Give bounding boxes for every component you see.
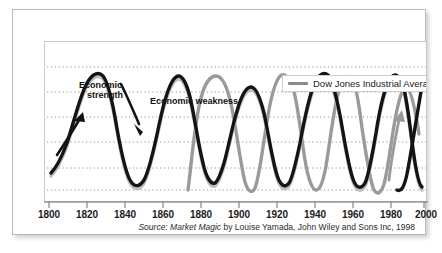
x-tick-label: 2000: [415, 209, 437, 220]
x-tick-label: 1840: [114, 209, 136, 220]
source-title: Market Magic: [168, 222, 224, 232]
annotation-economic-weakness-line2: weakness: [196, 96, 239, 106]
x-tick-label: 1820: [76, 209, 98, 220]
x-tick-label: 1900: [228, 209, 250, 220]
source-caption: Source: Market Magic by Louise Yamada, J…: [13, 222, 427, 232]
chart-legend[interactable]: Dow Jones Industrial Average: [282, 75, 427, 92]
annotation-economic-weakness-line1: Economic: [150, 96, 193, 106]
annotation-economic-strength: Economic strength: [79, 80, 123, 100]
annotation-economic-weakness: Economic weakness: [150, 96, 238, 106]
source-rest: by Louise Yamada, John Wiley and Sons In…: [223, 222, 415, 232]
axis-ticks: [49, 202, 424, 208]
x-tick-label: 1960: [342, 209, 364, 220]
x-tick-label: 1800: [38, 209, 60, 220]
source-prefix: Source:: [138, 222, 167, 232]
x-tick-label: 1920: [266, 209, 288, 220]
figure-card: Economic strength Economic weakness Dow …: [12, 9, 426, 235]
x-tick-label: 1980: [380, 209, 402, 220]
annotation-economic-strength-line1: Economic: [79, 80, 122, 90]
x-tick-label: 1880: [190, 209, 212, 220]
plot-area: Economic strength Economic weakness Dow …: [44, 41, 427, 202]
x-tick-label: 1860: [152, 209, 174, 220]
economic-strength-arrow: [57, 112, 85, 155]
annotation-economic-strength-line2: strength: [79, 90, 123, 100]
x-axis-labels: 1800 1820 1840 1860 1880 1900 1920 1940 …: [27, 209, 427, 223]
x-tick-label: 1940: [304, 209, 326, 220]
legend-label-dow-jones: Dow Jones Industrial Average: [313, 78, 427, 89]
chart-canvas: [45, 42, 427, 202]
legend-line-swatch: [288, 82, 308, 85]
figure-stage: Economic strength Economic weakness Dow …: [0, 0, 442, 253]
economic-weakness-arrow: [121, 84, 143, 136]
